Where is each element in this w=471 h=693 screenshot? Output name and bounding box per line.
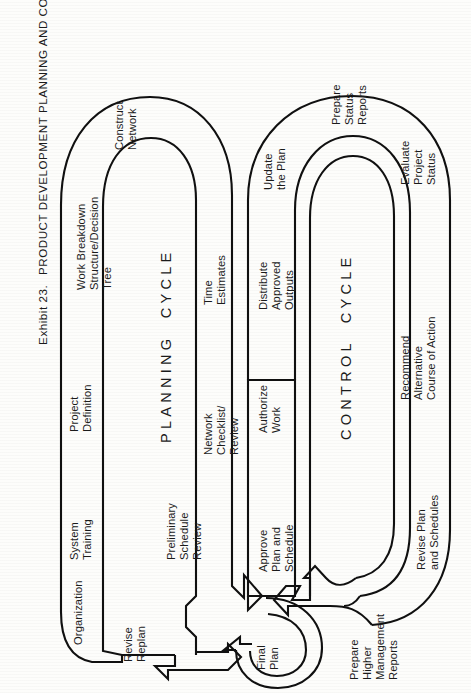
label-revise-plan-schedules: Revise Plan and Schedules (415, 495, 441, 570)
exhibit-title: Exhibit 23. PRODUCT DEVELOPMENT PLANNING… (23, 0, 63, 360)
planning-outer-band-bottom (103, 620, 122, 655)
label-prepare-higher: Prepare Higher Management Reports (348, 614, 400, 680)
label-construct-network: Construct Network (113, 101, 139, 150)
label-system-training: System Training (68, 519, 94, 560)
control-inner-right-edge (356, 216, 394, 578)
label-distribute-approved: Distribute Approved Outputs (257, 261, 296, 310)
label-approve-plan: Approve Plan and Schedule (257, 525, 296, 572)
label-final-plan: Final Plan (255, 645, 281, 670)
label-planning-cycle: PLANNING CYCLE (158, 249, 175, 443)
label-project-definition: Project Definition (68, 384, 94, 432)
exhibit-page: Exhibit 23. PRODUCT DEVELOPMENT PLANNING… (0, 0, 471, 693)
control-inner-left-edge (310, 156, 394, 218)
exhibit-title-text: PRODUCT DEVELOPMENT PLANNING AND CONTROL… (36, 0, 49, 275)
planning-inner-left-edge (186, 200, 196, 655)
label-control-cycle: CONTROL CYCLE (338, 254, 355, 440)
label-revise-replan: Revise Replan (122, 626, 148, 662)
label-preliminary-schedule: Preliminary Schedule Review (165, 503, 204, 560)
label-prepare-status: Prepare Status Reports (330, 84, 369, 125)
label-authorize-work: Authorize Work (257, 385, 283, 433)
label-network-checklist: Network Checklist/ Review (202, 406, 241, 456)
control-feedback-join (344, 596, 360, 606)
label-update-the-plan: Update the Plan (262, 148, 288, 190)
control-outer-inner-edge-lower (360, 212, 410, 596)
label-work-breakdown: Work Breakdown Structure/Decision Tree (75, 197, 114, 290)
label-organization: Organization (72, 580, 85, 645)
label-evaluate-project: Evaluate Project Status (399, 141, 438, 185)
label-recommend-alternative: Recommend Alternative Course of Action (399, 316, 438, 400)
label-time-estimates: Time Estimates (202, 255, 228, 305)
exhibit-number: Exhibit 23. (36, 285, 49, 345)
